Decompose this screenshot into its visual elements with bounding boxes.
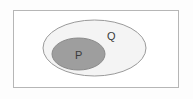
inner-set-label-p: P	[75, 50, 82, 61]
figure-canvas: Q P	[0, 0, 193, 99]
outer-set-label-q: Q	[107, 31, 116, 42]
venn-diagram	[0, 0, 193, 99]
